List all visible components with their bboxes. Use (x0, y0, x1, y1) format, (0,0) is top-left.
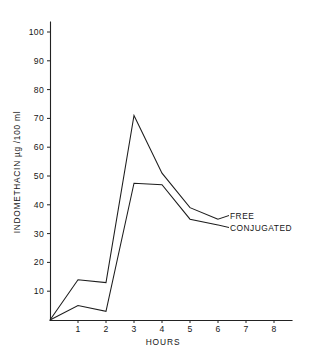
y-tick-label: 20 (34, 257, 44, 267)
y-tick-label: 90 (34, 56, 44, 66)
series-label-conjugated: CONJUGATED (230, 223, 292, 233)
x-tick-label: 7 (243, 324, 248, 334)
y-tick-label: 80 (34, 85, 44, 95)
y-tick-label: 10 (34, 286, 44, 296)
x-tick-label: 4 (159, 324, 164, 334)
x-tick-label: 1 (75, 324, 80, 334)
y-tick-label: 30 (34, 229, 44, 239)
chart-container: 100 90 80 70 60 50 40 30 20 10 1 2 3 (0, 0, 317, 352)
x-tick-label: 8 (271, 324, 276, 334)
x-tick-label: 6 (215, 324, 220, 334)
y-tick-label: 70 (34, 113, 44, 123)
y-tick-label: 50 (34, 171, 44, 181)
x-tick-label: 2 (103, 324, 108, 334)
line-chart: 100 90 80 70 60 50 40 30 20 10 1 2 3 (0, 0, 317, 352)
x-axis-title: HOURS (146, 337, 181, 347)
x-tick-label: 3 (131, 324, 136, 334)
y-tick-label: 60 (34, 142, 44, 152)
series-label-free: FREE (230, 211, 254, 221)
y-tick-label: 40 (34, 200, 44, 210)
x-tick-label: 5 (187, 324, 192, 334)
y-tick-label: 100 (29, 27, 44, 37)
y-axis-title: INDOMETHACIN µg /100 ml (12, 111, 22, 233)
